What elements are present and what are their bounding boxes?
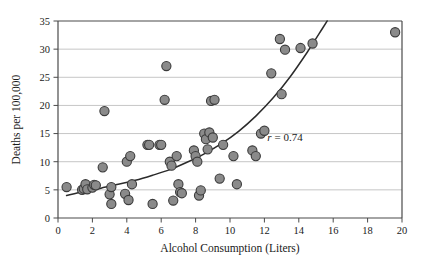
scatter-plot-figure: 02468101214161820 05101520253035 Alcohol…	[0, 0, 426, 274]
correlation-symbol: r	[267, 131, 272, 143]
y-tick-label: 30	[40, 44, 51, 55]
data-point	[193, 157, 202, 166]
x-tick-label: 8	[193, 225, 198, 236]
data-point	[251, 151, 260, 160]
x-tick-label: 16	[328, 225, 339, 236]
data-point	[391, 28, 400, 37]
data-point	[62, 182, 71, 191]
data-point	[208, 133, 217, 142]
data-point	[210, 95, 219, 104]
data-point	[177, 189, 186, 198]
x-tick-label: 20	[397, 225, 408, 236]
data-point	[277, 90, 286, 99]
data-point	[107, 199, 116, 208]
y-tick-label: 25	[40, 72, 51, 83]
data-point	[308, 39, 317, 48]
y-tick-label: 10	[40, 157, 51, 168]
x-tick-label: 12	[259, 225, 270, 236]
correlation-value: = 0.74	[275, 131, 304, 143]
y-axis-title: Deaths per 100,000	[10, 74, 23, 164]
x-tick-label: 14	[294, 225, 305, 236]
data-point	[167, 161, 176, 170]
data-point	[169, 196, 178, 205]
data-point	[232, 180, 241, 189]
data-point	[148, 199, 157, 208]
y-tick-label: 20	[40, 100, 51, 111]
data-point	[100, 106, 109, 115]
data-point	[219, 140, 228, 149]
data-point	[296, 43, 305, 52]
data-point	[107, 182, 116, 191]
y-tick-label: 5	[45, 185, 50, 196]
data-point	[98, 163, 107, 172]
data-point	[162, 61, 171, 70]
x-tick-label: 2	[90, 225, 95, 236]
data-point	[126, 151, 135, 160]
data-point	[91, 181, 100, 190]
data-point	[280, 45, 289, 54]
data-point	[124, 195, 133, 204]
x-tick-label: 4	[124, 225, 130, 236]
x-tick-label: 0	[55, 225, 60, 236]
x-axis-title: Alcohol Consumption (Liters)	[160, 242, 299, 255]
data-point	[196, 186, 205, 195]
caption-strip	[0, 264, 426, 274]
x-tick-label: 10	[225, 225, 236, 236]
x-tick-label: 18	[362, 225, 373, 236]
x-tick-label: 6	[159, 225, 164, 236]
y-tick-label: 0	[45, 213, 50, 224]
y-tick-label: 15	[40, 128, 51, 139]
data-point	[157, 140, 166, 149]
data-point	[215, 174, 224, 183]
y-tick-label: 35	[40, 16, 51, 27]
data-point	[127, 180, 136, 189]
data-point	[160, 95, 169, 104]
data-point	[172, 151, 181, 160]
data-point	[275, 34, 284, 43]
data-point	[267, 69, 276, 78]
data-point	[229, 151, 238, 160]
data-point	[145, 140, 154, 149]
data-point	[203, 145, 212, 154]
